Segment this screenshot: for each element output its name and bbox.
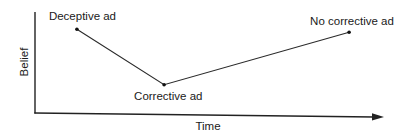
x-axis-arrowhead: [372, 113, 384, 120]
belief-line: [77, 29, 349, 84]
point-label-no-corrective-ad: No corrective ad: [310, 15, 394, 27]
point-label-corrective-ad: Corrective ad: [134, 90, 202, 102]
data-point-deceptive-ad: [75, 27, 79, 31]
x-axis-label: Time: [195, 120, 220, 132]
y-axis-label: Belief: [18, 47, 30, 77]
data-point-corrective-ad: [162, 83, 166, 87]
x-axis: [34, 113, 374, 117]
point-label-deceptive-ad: Deceptive ad: [49, 10, 116, 22]
belief-time-diagram: Belief Time Deceptive ad Corrective ad N…: [0, 0, 409, 139]
data-point-no-corrective-ad: [347, 30, 351, 34]
